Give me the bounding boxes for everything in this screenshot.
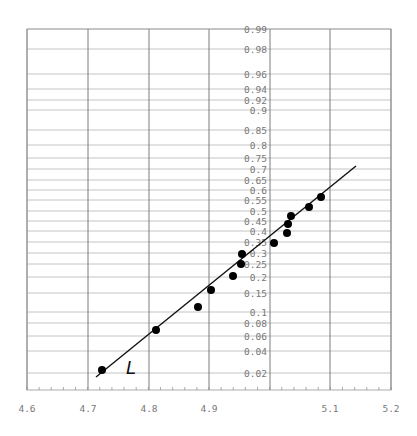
x-tick-label: 4.6 <box>18 403 35 414</box>
x-tick-label: 4.9 <box>200 403 217 414</box>
line-label-L: L <box>126 357 136 378</box>
data-point <box>287 212 295 220</box>
y-tick-label: 0.04 <box>244 346 267 357</box>
y-tick-label: 0.94 <box>244 84 267 95</box>
y-tick-label: 0.96 <box>244 69 267 80</box>
y-tick-label: 0.99 <box>244 24 267 35</box>
data-point <box>152 326 160 334</box>
y-axis-tick-labels: 0.990.980.960.940.920.90.850.80.750.70.6… <box>244 24 267 379</box>
y-tick-label: 0.3 <box>250 248 267 259</box>
data-point <box>237 260 245 268</box>
data-point <box>284 220 292 228</box>
data-point <box>98 366 106 374</box>
y-tick-label: 0.8 <box>250 140 267 151</box>
y-tick-label: 0.06 <box>244 331 267 342</box>
x-tick-label: 5.1 <box>321 403 338 414</box>
data-point <box>194 303 202 311</box>
data-point <box>270 239 278 247</box>
y-tick-label: 0.08 <box>244 318 267 329</box>
x-axis-tick-labels: 4.64.74.84.95.15.2 <box>18 403 399 414</box>
x-tick-label: 5.2 <box>382 403 399 414</box>
data-point <box>283 229 291 237</box>
x-tick-label: 4.7 <box>79 403 96 414</box>
y-tick-label: 0.9 <box>250 105 267 116</box>
y-tick-label: 0.02 <box>244 368 267 379</box>
x-axis-minor-ticks <box>27 387 391 390</box>
data-point <box>317 193 325 201</box>
y-tick-label: 0.7 <box>250 164 267 175</box>
data-point <box>229 272 237 280</box>
probability-plot: 0.990.980.960.940.920.90.850.80.750.70.6… <box>0 0 417 436</box>
y-tick-label: 0.35 <box>244 237 267 248</box>
y-tick-label: 0.15 <box>244 288 267 299</box>
data-point <box>305 203 313 211</box>
y-tick-label: 0.25 <box>244 259 267 270</box>
y-tick-label: 0.1 <box>250 307 267 318</box>
y-tick-label: 0.85 <box>244 125 267 136</box>
y-tick-label: 0.55 <box>244 195 267 206</box>
x-tick-label: 4.8 <box>140 403 157 414</box>
fit-line-L <box>96 166 356 377</box>
y-tick-label: 0.75 <box>244 153 267 164</box>
data-point <box>238 250 246 258</box>
y-tick-label: 0.4 <box>250 226 267 237</box>
y-tick-label: 0.98 <box>244 44 267 55</box>
data-point <box>207 286 215 294</box>
y-tick-label: 0.2 <box>250 272 267 283</box>
